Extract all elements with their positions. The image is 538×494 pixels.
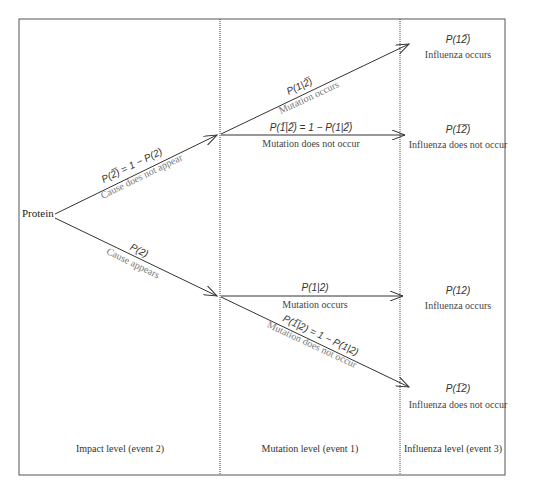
prob-mutation-not-occur-no-cause: P(1̅|2̅) = 1 − P(1|2̅) [270,122,352,133]
probability-tree-diagram: Protein P(2̅) = 1 − P(2) Cause does not … [0,0,538,494]
outcome-2-label: Influenza does not occur [409,139,508,150]
outcome-2-prob: P(1̅2̅) [446,124,470,135]
level-label-impact: Impact level (event 2) [76,443,164,455]
outcome-3-prob: P(12) [446,285,470,296]
label-mutation-occurs-cause: Mutation occurs [282,299,347,310]
prob-mutation-occurs-cause: P(1|2) [301,282,328,293]
outcome-1-prob: P(12̅) [446,34,470,45]
outcome-1-label: Influenza occurs [425,49,491,60]
level-label-influenza: Influenza level (event 3) [404,443,502,455]
root-node-label: Protein [22,207,54,219]
outcome-4-prob: P(1̅2) [446,383,470,394]
outcome-3-label: Influenza occurs [425,300,491,311]
label-mutation-not-occur-no-cause: Mutation does not occur [262,138,360,149]
edge-cause-appears [55,218,217,296]
level-label-mutation: Mutation level (event 1) [262,443,359,455]
outcome-4-label: Influenza does not occur [409,399,508,410]
